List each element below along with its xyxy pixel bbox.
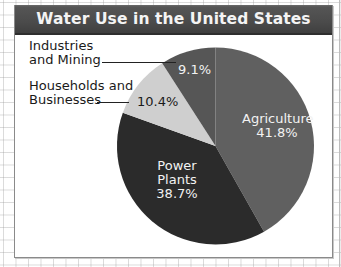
label-industries-line2: and Mining bbox=[29, 53, 101, 67]
leader-line-industries bbox=[102, 62, 176, 63]
label-industries-line1: Industries bbox=[29, 39, 101, 53]
label-power-value: 38.7% bbox=[150, 187, 204, 201]
label-agriculture-value: 41.8% bbox=[242, 126, 312, 140]
label-power-plants: Power Plants 38.7% bbox=[150, 159, 204, 201]
leader-line-households bbox=[97, 102, 129, 103]
label-agriculture-name: Agriculture bbox=[242, 112, 312, 126]
label-households-line2: Businesses bbox=[29, 93, 133, 107]
label-industries: Industries and Mining bbox=[29, 39, 101, 66]
value-industries: 9.1% bbox=[178, 63, 211, 77]
label-households-line1: Households and bbox=[29, 79, 133, 93]
label-power-line1: Power bbox=[150, 159, 204, 173]
value-households: 10.4% bbox=[137, 95, 178, 109]
label-power-line2: Plants bbox=[150, 173, 204, 187]
label-agriculture: Agriculture 41.8% bbox=[242, 112, 312, 140]
